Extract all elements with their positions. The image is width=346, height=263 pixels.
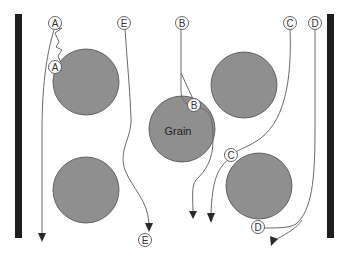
svg-text:C: C xyxy=(286,18,293,29)
path-b-arrowhead xyxy=(189,211,197,219)
label-b-contact: B xyxy=(188,99,201,112)
label-d-start: D xyxy=(309,17,322,30)
label-e-end: E xyxy=(139,234,152,247)
path-d-drop xyxy=(275,220,302,240)
pore-flow-diagram: Grain A A E E B B C xyxy=(0,0,346,263)
svg-text:D: D xyxy=(254,222,261,233)
path-e xyxy=(123,29,149,224)
label-a-start: A xyxy=(49,17,62,30)
label-b-start: B xyxy=(176,17,189,30)
svg-text:B: B xyxy=(191,100,198,111)
label-a-contact: A xyxy=(49,61,62,74)
path-c-drop xyxy=(211,160,228,215)
grain-label: Grain xyxy=(165,125,192,137)
path-c-arrowhead xyxy=(207,213,215,223)
path-e-arrowhead xyxy=(145,223,153,232)
svg-text:D: D xyxy=(311,18,318,29)
right-wall xyxy=(327,14,334,238)
grain-top-right xyxy=(211,52,277,118)
label-c-start: C xyxy=(284,17,297,30)
svg-text:A: A xyxy=(52,62,59,73)
grain-bottom-left xyxy=(53,157,119,223)
svg-text:E: E xyxy=(121,18,128,29)
label-d-contact: D xyxy=(252,221,265,234)
svg-text:B: B xyxy=(179,18,186,29)
path-b-branch xyxy=(181,73,193,99)
path-d-arrowhead xyxy=(270,236,278,246)
svg-text:C: C xyxy=(227,150,234,161)
path-a-arrowhead xyxy=(38,233,46,242)
left-wall xyxy=(15,14,22,238)
grain-bottom-right xyxy=(226,153,292,219)
label-e-start: E xyxy=(118,17,131,30)
svg-text:A: A xyxy=(52,18,59,29)
path-a-drop xyxy=(42,30,54,234)
grain-top-left xyxy=(53,49,119,115)
svg-text:E: E xyxy=(142,235,149,246)
label-c-contact: C xyxy=(225,149,238,162)
path-b-main xyxy=(181,29,187,104)
path-a-wiggle xyxy=(55,28,62,61)
